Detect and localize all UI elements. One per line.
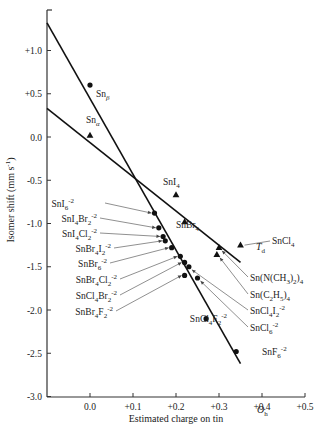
point-label: SnBr4I2-2 bbox=[75, 242, 111, 257]
arrowhead bbox=[165, 247, 169, 250]
point-label: SnCl6-2 bbox=[250, 321, 279, 336]
axes bbox=[47, 10, 305, 397]
leader-line bbox=[120, 262, 182, 295]
circle-point-marker bbox=[182, 260, 187, 265]
point-label: SnI4 bbox=[163, 177, 180, 190]
triangle-point-marker bbox=[87, 132, 94, 138]
leader-line bbox=[105, 203, 152, 213]
y-tick-label: -0.5 bbox=[27, 176, 42, 186]
y-tick-label: -2.0 bbox=[27, 306, 42, 316]
leader-line bbox=[116, 275, 182, 311]
point-label: SnCl4 bbox=[272, 236, 295, 249]
point-label: SnI4Cl2-2 bbox=[62, 227, 98, 242]
arrowhead bbox=[220, 258, 224, 262]
y-axis-label: Isomer shift (mm s-1) bbox=[4, 157, 17, 242]
triangle-point-marker bbox=[237, 242, 244, 248]
circle-point-marker bbox=[152, 211, 157, 216]
leader-line bbox=[100, 218, 156, 228]
point-label: SnBr4F2-2 bbox=[75, 305, 113, 320]
point-label: SnBr4Cl2-2 bbox=[76, 273, 118, 288]
y-tick-label: -3.0 bbox=[27, 392, 42, 402]
x-tick-label: +0.3 bbox=[210, 402, 227, 412]
arrowhead bbox=[148, 211, 152, 214]
circle-point-marker bbox=[195, 275, 200, 280]
point-label: Snβ bbox=[96, 89, 110, 102]
point-label: Snα bbox=[86, 115, 100, 128]
leader-line bbox=[120, 256, 177, 279]
y-tick-label: -1.0 bbox=[27, 219, 42, 229]
point-label: SnBr6-2 bbox=[78, 257, 107, 272]
td-line-label: Td bbox=[256, 241, 266, 255]
point-labels: SnβSnI6-2SnI4Br2-2SnI4Cl2-2SnBr4I2-2SnBr… bbox=[51, 89, 303, 360]
leader-line bbox=[110, 248, 169, 263]
circle-point-marker bbox=[169, 245, 174, 250]
point-label: SnI6-2 bbox=[51, 197, 74, 212]
point-label: SnCl4F2-2 bbox=[190, 312, 228, 327]
point-label: Sn(C2H5)4 bbox=[250, 290, 291, 303]
leader-line bbox=[114, 241, 162, 248]
arrowhead bbox=[158, 240, 162, 243]
point-label: SnCl4Br2-2 bbox=[76, 289, 118, 304]
mossbauer-isomer-shift-chart: +1.0+0.50.0-0.5-1.0-1.5-2.0-2.5-3.0 0.0+… bbox=[0, 0, 324, 432]
x-axis-ticks: 0.0+0.1+0.2+0.3+0.4+0.5 bbox=[84, 393, 314, 412]
circle-point-marker bbox=[186, 264, 191, 269]
point-label: SnCl4I2-2 bbox=[250, 304, 286, 319]
arrowhead bbox=[156, 235, 160, 238]
y-tick-label: +0.5 bbox=[25, 89, 42, 99]
leader-line bbox=[222, 251, 248, 277]
arrowhead bbox=[152, 226, 156, 229]
x-tick-label: +0.2 bbox=[167, 402, 184, 412]
arrowhead bbox=[192, 270, 196, 273]
x-axis-label: Estimated charge on tin bbox=[129, 413, 224, 424]
triangle-point-marker bbox=[173, 191, 180, 197]
point-label: Sn(N(CH3)2)4 bbox=[250, 273, 304, 286]
circle-point-marker bbox=[87, 83, 92, 88]
leader-line bbox=[100, 233, 160, 236]
triangle-point-marker bbox=[213, 251, 220, 257]
circle-point-marker bbox=[182, 273, 187, 278]
point-label: SnF6-2 bbox=[262, 345, 287, 360]
circle-point-marker bbox=[178, 254, 183, 259]
y-tick-label: 0.0 bbox=[30, 133, 42, 143]
circle-point-marker bbox=[156, 225, 161, 230]
y-tick-label: -1.5 bbox=[27, 262, 42, 272]
y-tick-label: -2.5 bbox=[27, 349, 42, 359]
x-tick-label: +0.5 bbox=[296, 402, 313, 412]
x-tick-label: 0.0 bbox=[84, 402, 96, 412]
y-tick-label: +1.0 bbox=[25, 46, 42, 56]
circle-point-marker bbox=[234, 349, 239, 354]
point-label: SnBr4 bbox=[176, 220, 200, 233]
circle-point-marker bbox=[163, 238, 168, 243]
x-tick-label: +0.1 bbox=[124, 402, 141, 412]
leader-line bbox=[192, 270, 248, 310]
point-label: SnI4Br2-2 bbox=[61, 212, 97, 227]
